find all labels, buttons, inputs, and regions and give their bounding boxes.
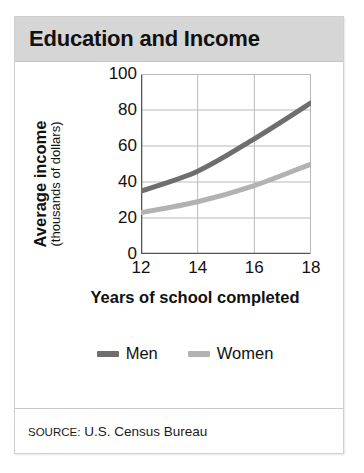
- figure-header: Education and Income: [15, 17, 343, 62]
- x-tick-label: 14: [178, 258, 218, 278]
- legend-swatch-women: [188, 351, 210, 357]
- legend-swatch-men: [97, 351, 119, 357]
- y-tick-label: 100: [95, 64, 137, 84]
- y-axis-title-main: Average income: [32, 121, 49, 248]
- x-tick-label: 18: [291, 258, 331, 278]
- y-tick-label: 40: [95, 172, 137, 192]
- legend-entry-men: Men: [97, 344, 158, 363]
- y-axis-title-sub: (thousands of dollars): [49, 122, 63, 247]
- series-line-men: [141, 103, 311, 191]
- x-axis-title: Years of school completed: [75, 288, 315, 306]
- chart-legend: MenWomen: [45, 344, 325, 363]
- y-axis-tick-labels: 020406080100: [93, 74, 137, 254]
- chart-svg: [141, 74, 311, 254]
- legend-label: Women: [217, 344, 274, 363]
- y-tick-label: 20: [95, 208, 137, 228]
- x-tick-label: 12: [121, 258, 161, 278]
- legend-entry-women: Women: [188, 344, 274, 363]
- source-prefix: SOURCE:: [28, 426, 80, 438]
- source-value: U.S. Census Bureau: [84, 424, 207, 439]
- chart-body: Average income (thousands of dollars) 02…: [15, 62, 343, 408]
- y-tick-label: 80: [95, 100, 137, 120]
- source-row: SOURCE: U.S. Census Bureau: [15, 409, 343, 453]
- y-axis-title: Average income (thousands of dollars): [25, 89, 69, 279]
- page-title: Education and Income: [29, 26, 260, 52]
- plot-area: [141, 74, 311, 254]
- source-text: SOURCE: U.S. Census Bureau: [28, 424, 207, 439]
- x-axis-tick-labels: 12141618: [141, 258, 311, 282]
- legend-label: Men: [126, 344, 158, 363]
- figure-card: Education and Income Average income (tho…: [14, 16, 344, 454]
- x-tick-label: 16: [234, 258, 274, 278]
- series-line-women: [141, 164, 311, 213]
- y-tick-label: 60: [95, 136, 137, 156]
